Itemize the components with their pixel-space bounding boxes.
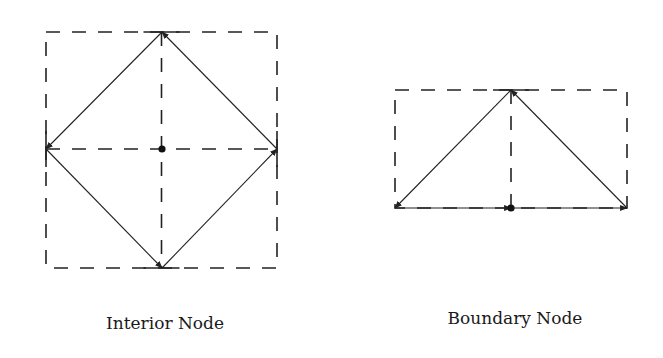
node-dot-icon	[507, 204, 514, 211]
node-dot-icon	[158, 145, 165, 152]
boundary-node-panel	[395, 90, 627, 212]
directed-edge	[395, 90, 511, 208]
directed-edge	[511, 90, 627, 208]
interior-node-label: Interior Node	[106, 313, 224, 333]
directed-edge	[46, 149, 162, 268]
interior-node-panel	[46, 32, 277, 268]
node-stencil-diagram	[0, 0, 663, 358]
boundary-node-label: Boundary Node	[448, 308, 583, 328]
directed-edge	[162, 32, 277, 149]
directed-edge	[46, 32, 162, 149]
directed-edge	[162, 149, 277, 268]
